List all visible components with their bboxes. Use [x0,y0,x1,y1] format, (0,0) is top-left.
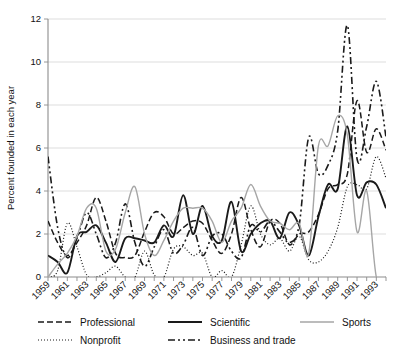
y-tick-label: 4 [36,185,41,196]
y-axis-title: Percent founded in each year [5,86,16,210]
legend-label: Sports [342,317,371,328]
y-tick-label: 8 [36,99,41,110]
line-chart-figure: Percent founded in each year 024681012 1… [0,0,407,354]
y-tick-label: 2 [36,228,41,239]
legend-label: Scientific [210,317,250,328]
y-tick-label: 6 [36,142,41,153]
legend-label: Professional [80,317,135,328]
y-tick-label: 0 [36,271,41,282]
legend-label: Nonprofit [80,335,121,346]
legend-label: Business and trade [210,335,296,346]
y-tick-label: 12 [30,13,41,24]
y-tick-label: 10 [30,56,41,67]
